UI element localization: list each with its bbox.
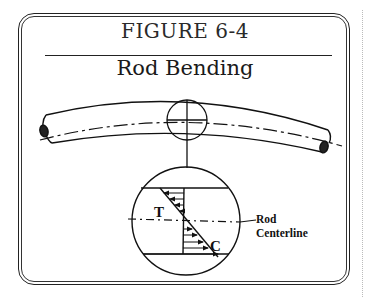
figure-panel: FIGURE 6-4 Rod Bending (0, 0, 370, 297)
centerline-leader (240, 220, 256, 222)
compression-label: C (210, 238, 221, 254)
compression-arrows (143, 229, 218, 254)
tension-label: T (154, 204, 164, 220)
rod-bending-diagram: T C Rod Centerline (0, 0, 370, 297)
bent-rod (39, 102, 331, 154)
centerline-label-2: Centerline (256, 227, 308, 239)
centerline-label-1: Rod (256, 213, 277, 225)
detail-circle-small (167, 100, 207, 140)
